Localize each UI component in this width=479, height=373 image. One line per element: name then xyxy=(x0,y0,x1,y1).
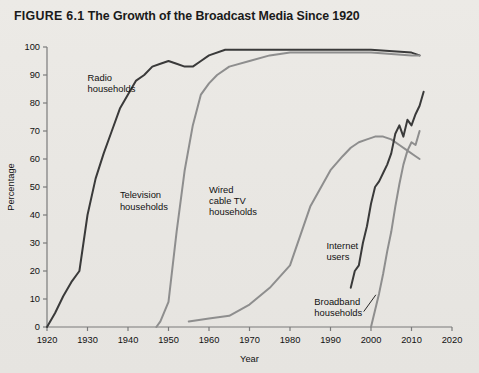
y-axis-title: Percentage xyxy=(6,163,16,211)
x-tick-label: 1950 xyxy=(158,335,179,345)
series-label-wired-cable-tv-households: Wiredcable TVhouseholds xyxy=(209,184,257,218)
y-tick-label: 50 xyxy=(30,182,40,192)
x-tick-label: 1960 xyxy=(199,335,220,345)
y-tick-label: 30 xyxy=(30,238,40,248)
y-tick-label: 70 xyxy=(30,126,40,136)
series-label-line: Broadband xyxy=(314,296,360,307)
y-tick-label: 0 xyxy=(35,322,40,332)
x-tick-label: 1970 xyxy=(239,335,260,345)
x-tick-label: 1980 xyxy=(280,335,301,345)
y-tick-label: 40 xyxy=(30,210,40,220)
y-tick-label: 80 xyxy=(30,98,40,108)
line-chart: 0102030405060708090100192019301940195019… xyxy=(0,0,479,373)
series-line-internet-users xyxy=(351,92,424,288)
y-tick-label: 60 xyxy=(30,154,40,164)
series-label-internet-users: Internetusers xyxy=(326,240,358,262)
x-tick-label: 2020 xyxy=(442,335,463,345)
series-label-broadband-households: Broadbandhouseholds xyxy=(314,296,362,318)
series-label-line: Internet xyxy=(326,240,358,251)
series-label-line: households xyxy=(314,307,362,318)
series-label-line: households xyxy=(88,83,136,94)
x-tick-label: 1990 xyxy=(320,335,341,345)
series-label-line: households xyxy=(120,201,168,212)
y-tick-label: 90 xyxy=(30,70,40,80)
y-tick-label: 10 xyxy=(30,294,40,304)
y-tick-label: 100 xyxy=(24,42,40,52)
figure-panel: FIGURE 6.1 The Growth of the Broadcast M… xyxy=(0,0,479,373)
series-label-line: Radio xyxy=(88,72,113,83)
series-label-line: Television xyxy=(120,189,161,200)
x-tick-label: 1930 xyxy=(77,335,98,345)
x-tick-label: 1940 xyxy=(118,335,139,345)
series-label-radio-households: Radiohouseholds xyxy=(88,72,136,94)
series-line-wired-cable-tv-households xyxy=(189,137,420,322)
series-label-line: households xyxy=(209,206,257,217)
series-label-line: cable TV xyxy=(209,195,247,206)
x-tick-label: 2010 xyxy=(401,335,422,345)
series-label-line: users xyxy=(326,251,349,262)
y-tick-label: 20 xyxy=(30,266,40,276)
series-label-line: Wired xyxy=(209,184,233,195)
x-tick-label: 2000 xyxy=(361,335,382,345)
series-label-television-households: Televisionhouseholds xyxy=(120,189,168,211)
broadband-leader-line xyxy=(364,295,376,312)
chart-plot-area: 0102030405060708090100192019301940195019… xyxy=(0,0,479,373)
series-line-broadband-households xyxy=(371,131,420,327)
x-tick-label: 1920 xyxy=(37,335,58,345)
x-axis-title: Year xyxy=(240,354,259,364)
